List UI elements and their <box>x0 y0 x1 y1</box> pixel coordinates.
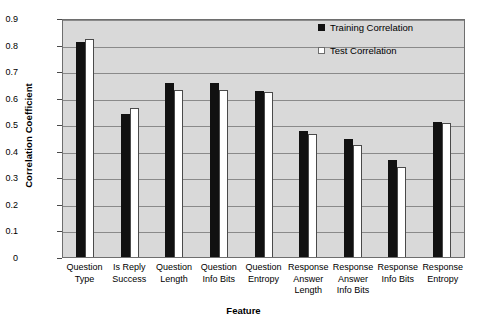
x-axis-tick-label-line: Response <box>421 262 464 274</box>
x-axis-tick-label-line: Response <box>332 262 375 274</box>
y-axis-tick-label: 0 <box>0 253 18 263</box>
bar-group <box>63 20 108 257</box>
bar <box>353 145 362 257</box>
legend-item-label: Training Correlation <box>330 22 413 33</box>
y-axis-tick-label: 0.5 <box>0 120 18 130</box>
x-axis-tick-label-line: Length <box>287 285 330 297</box>
x-axis-tick-label: QuestionType <box>62 262 107 297</box>
bar <box>85 39 94 257</box>
x-axis-tick-label-line: Response <box>287 262 330 274</box>
x-axis-tick-label-line: Info Bits <box>332 285 375 297</box>
bar-group <box>420 20 465 257</box>
y-axis-tick-label: 0.9 <box>0 14 18 24</box>
x-axis-tick-label-line: Success <box>108 274 151 286</box>
bar-group <box>108 20 153 257</box>
y-axis-tick-label: 0.4 <box>0 147 18 157</box>
x-axis-tick-label-line: Answer <box>287 274 330 286</box>
bar <box>397 167 406 257</box>
x-axis-tick-label: ResponseAnswerLength <box>286 262 331 297</box>
x-axis-tick-label: QuestionEntropy <box>241 262 286 297</box>
y-axis-tick-label: 0.3 <box>0 173 18 183</box>
x-axis-tick-label: QuestionLength <box>152 262 197 297</box>
x-axis-tick-label-line: Answer <box>332 274 375 286</box>
x-axis-tick-label-line: Entropy <box>242 274 285 286</box>
y-axis-tick-label: 0.1 <box>0 226 18 236</box>
bar <box>264 92 273 257</box>
bar <box>433 122 442 257</box>
x-axis-tick-label-line: Question <box>153 262 196 274</box>
y-axis-tick-label: 0.2 <box>0 200 18 210</box>
y-axis-tick-mark <box>57 258 62 259</box>
x-axis-tick-labels: QuestionTypeIs ReplySuccessQuestionLengt… <box>62 262 465 297</box>
y-axis-tick-label: 0.6 <box>0 94 18 104</box>
y-axis-title: Correlation Coefficient <box>23 56 34 216</box>
x-axis-tick-label-line: Response <box>376 262 419 274</box>
bar <box>121 114 130 257</box>
x-axis-tick-label: QuestionInfo Bits <box>196 262 241 297</box>
bar <box>442 123 451 257</box>
bar <box>344 139 353 257</box>
x-axis-tick-label-line: Question <box>242 262 285 274</box>
x-axis-tick-label: ResponseAnswerInfo Bits <box>331 262 376 297</box>
x-axis-tick-label-line: Question <box>63 262 106 274</box>
x-axis-tick-label-line: Info Bits <box>197 274 240 286</box>
bar <box>174 90 183 257</box>
legend-item-label: Test Correlation <box>330 45 397 56</box>
bar <box>299 131 308 257</box>
bar <box>210 83 219 257</box>
legend-item: Test Correlation <box>318 45 413 56</box>
bar-group <box>197 20 242 257</box>
x-axis-tick-label: Is ReplySuccess <box>107 262 152 297</box>
x-axis-tick-label-line: Length <box>153 274 196 286</box>
legend-swatch-icon <box>318 47 325 54</box>
x-axis-title: Feature <box>0 305 487 316</box>
x-axis-tick-label-line: Entropy <box>421 274 464 286</box>
chart-legend: Training CorrelationTest Correlation <box>318 22 413 68</box>
x-axis-tick-label: ResponseEntropy <box>420 262 465 297</box>
x-axis-tick-label-line: Type <box>63 274 106 286</box>
x-axis-tick-label-line: Is Reply <box>108 262 151 274</box>
bar <box>219 90 228 257</box>
bar <box>165 83 174 257</box>
bar <box>130 108 139 257</box>
y-axis-tick-label: 0.8 <box>0 41 18 51</box>
legend-swatch-icon <box>318 24 325 31</box>
x-axis-tick-label-line: Question <box>197 262 240 274</box>
x-axis-tick-label: ResponseInfo Bits <box>375 262 420 297</box>
bar <box>76 42 85 257</box>
y-axis-tick-label: 0.7 <box>0 67 18 77</box>
bar <box>388 160 397 257</box>
bar-group <box>241 20 286 257</box>
bar-chart: Correlation Coefficient 0.90.80.70.60.50… <box>0 0 487 325</box>
bar <box>308 134 317 257</box>
bar <box>255 91 264 257</box>
legend-item: Training Correlation <box>318 22 413 33</box>
x-axis-tick-label-line: Info Bits <box>376 274 419 286</box>
bar-group <box>152 20 197 257</box>
